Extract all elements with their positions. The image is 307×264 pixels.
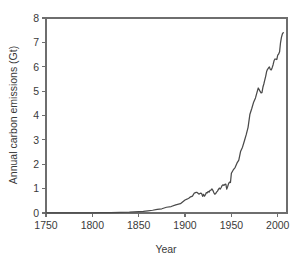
- x-tick-label: 1950: [220, 219, 244, 231]
- x-tick-label: 1900: [173, 219, 197, 231]
- y-tick-label: 6: [33, 61, 39, 73]
- x-tick-label: 1750: [34, 219, 58, 231]
- y-tick-label: 1: [33, 182, 39, 194]
- chart-figure: 012345678 175018001850190019502000 Year …: [0, 0, 307, 264]
- y-axis-title: Annual carbon emissions (Gt): [7, 46, 19, 184]
- x-tick-label: 1800: [81, 219, 105, 231]
- x-tick-label: 2000: [266, 219, 290, 231]
- y-axis-tick-labels: 012345678: [33, 12, 39, 219]
- y-tick-label: 5: [33, 85, 39, 97]
- y-tick-label: 4: [33, 109, 39, 121]
- y-tick-label: 3: [33, 134, 39, 146]
- emissions-line-chart: 012345678 175018001850190019502000 Year …: [0, 0, 307, 264]
- y-tick-label: 7: [33, 36, 39, 48]
- y-tick-label: 2: [33, 158, 39, 170]
- y-tick-label: 8: [33, 12, 39, 24]
- x-tick-label: 1850: [127, 219, 151, 231]
- x-axis-title: Year: [155, 243, 177, 255]
- y-tick-label: 0: [33, 207, 39, 219]
